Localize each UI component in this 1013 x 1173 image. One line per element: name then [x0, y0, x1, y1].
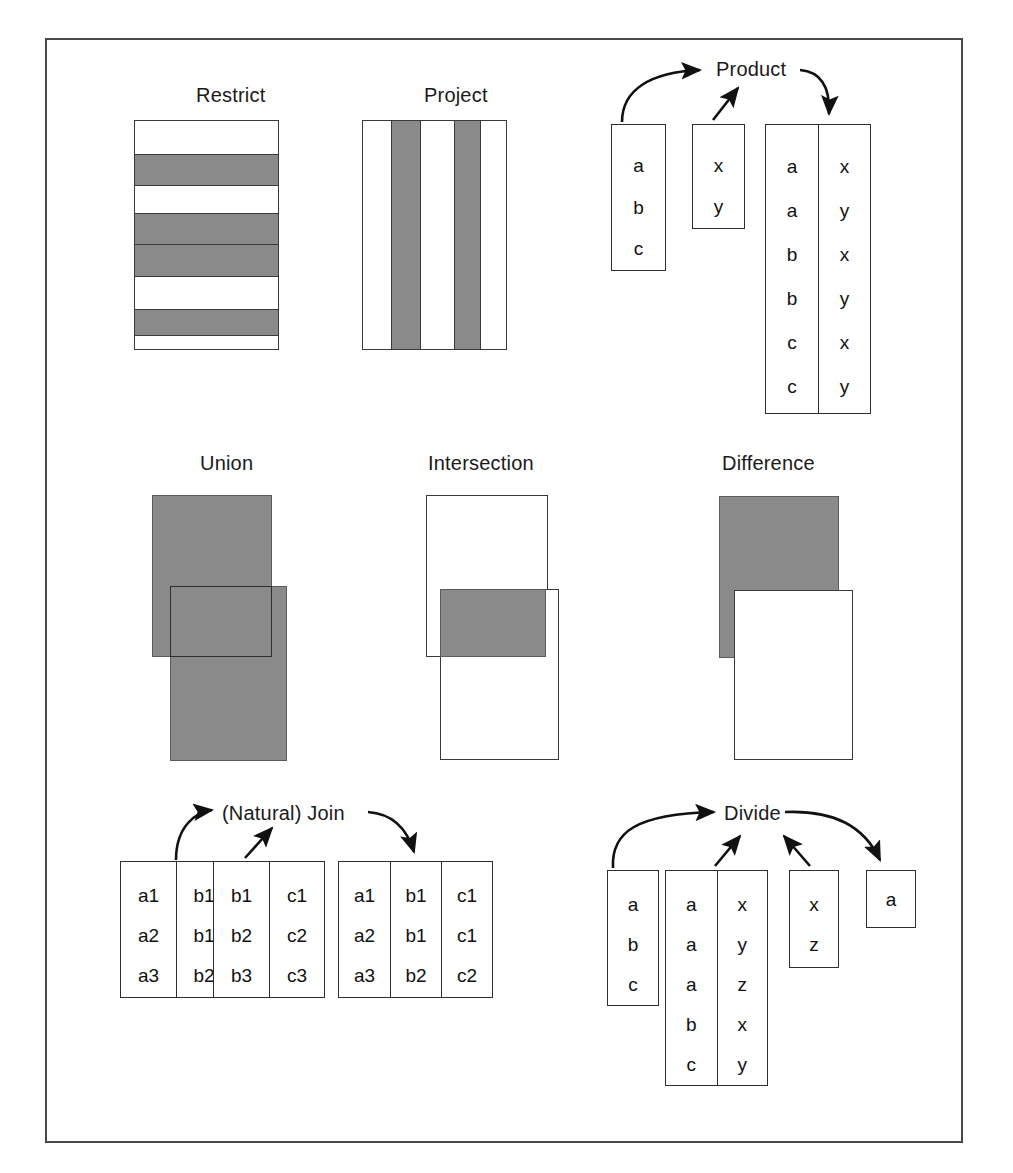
relation-column: a a a b c	[666, 871, 717, 1085]
relation-cell: a2	[121, 916, 176, 956]
relation-column: b1 b1 b2	[390, 862, 441, 997]
relation-cell: b	[766, 277, 818, 321]
restrict-band-4	[135, 213, 278, 245]
product-input-left: a b c	[611, 124, 666, 271]
relational-algebra-figure: Restrict Project Product a b c x y	[0, 0, 1013, 1173]
relation-column: b1 b2 b3	[214, 862, 269, 997]
relation-cell: a	[867, 880, 915, 920]
project-col-4	[454, 121, 481, 349]
divide-input-pairs: a a a b c x y z x y	[665, 870, 768, 1086]
join-title: (Natural) Join	[222, 802, 345, 825]
restrict-band-2	[135, 154, 278, 186]
relation-cell: b	[766, 233, 818, 277]
relation-cell: a	[766, 145, 818, 189]
project-title: Project	[424, 84, 488, 107]
relation-cell: y	[718, 925, 768, 965]
relation-column: c1 c2 c3	[269, 862, 324, 997]
relation-cell: a1	[121, 876, 176, 916]
relation-cell: x	[819, 233, 870, 277]
restrict-band-8	[135, 336, 278, 349]
relation-cell: b1	[391, 916, 441, 956]
relation-cell: a	[612, 145, 665, 187]
relation-cell: a	[666, 885, 717, 925]
relation-cell: a	[766, 189, 818, 233]
relation-column: x y z x y	[717, 871, 768, 1085]
divide-input-left: a b c	[607, 870, 659, 1006]
relation-column: a a b b c c	[766, 125, 818, 413]
relation-cell: b	[612, 187, 665, 229]
relation-cell: b	[666, 1005, 717, 1045]
relation-cell: a	[666, 925, 717, 965]
restrict-band-1	[135, 121, 278, 154]
relation-column: x y x y x y	[818, 125, 870, 413]
relation-cell: z	[790, 925, 838, 965]
relation-cell: x	[819, 321, 870, 365]
restrict-title: Restrict	[196, 84, 265, 107]
relation-cell: a2	[339, 916, 390, 956]
relation-cell: c2	[442, 956, 492, 996]
relation-cell: c	[766, 365, 818, 409]
relation-cell: x	[718, 1005, 768, 1045]
project-col-5	[481, 121, 506, 349]
union-overlap-outline	[170, 586, 272, 657]
relation-cell: c1	[442, 916, 492, 956]
divide-input-divisor: x z	[789, 870, 839, 968]
relation-column: x y	[693, 125, 744, 228]
relation-column: a b c	[612, 125, 665, 270]
relation-cell: x	[790, 885, 838, 925]
project-diagram	[362, 120, 507, 350]
relation-cell: c	[612, 228, 665, 270]
restrict-band-6	[135, 277, 278, 309]
relation-cell: b	[608, 925, 658, 965]
product-input-right: x y	[692, 124, 745, 229]
restrict-band-7	[135, 309, 278, 336]
divide-output: a	[866, 870, 916, 928]
relation-cell: a	[608, 885, 658, 925]
relation-column: x z	[790, 871, 838, 967]
intersection-overlap	[440, 589, 546, 657]
restrict-band-3	[135, 186, 278, 213]
restrict-band-5	[135, 245, 278, 277]
relation-cell: y	[693, 187, 744, 229]
relation-cell: y	[819, 365, 870, 409]
difference-set-b	[734, 590, 853, 760]
relation-cell: b2	[214, 916, 269, 956]
difference-title: Difference	[722, 452, 815, 475]
relation-cell: c3	[270, 956, 324, 996]
divide-title: Divide	[724, 802, 781, 825]
join-output: a1 a2 a3 b1 b1 b2 c1 c1 c2	[338, 861, 493, 998]
join-input-right: b1 b2 b3 c1 c2 c3	[213, 861, 325, 998]
product-output: a a b b c c x y x y x y	[765, 124, 871, 414]
relation-column: a b c	[608, 871, 658, 1005]
relation-cell: a	[666, 965, 717, 1005]
relation-cell: x	[693, 145, 744, 187]
relation-cell: z	[718, 965, 768, 1005]
relation-cell: c1	[270, 876, 324, 916]
product-title: Product	[716, 58, 786, 81]
relation-column: a	[867, 871, 915, 927]
relation-cell: y	[718, 1045, 768, 1085]
relation-cell: c1	[442, 876, 492, 916]
relation-cell: x	[819, 145, 870, 189]
relation-cell: c	[608, 965, 658, 1005]
union-title: Union	[200, 452, 253, 475]
relation-cell: c	[666, 1045, 717, 1085]
relation-cell: b1	[391, 876, 441, 916]
relation-column: a1 a2 a3	[121, 862, 176, 997]
project-col-3	[421, 121, 454, 349]
project-col-1	[363, 121, 391, 349]
relation-cell: c2	[270, 916, 324, 956]
intersection-title: Intersection	[428, 452, 534, 475]
relation-cell: b3	[214, 956, 269, 996]
relation-cell: y	[819, 189, 870, 233]
relation-column: a1 a2 a3	[339, 862, 390, 997]
restrict-diagram	[134, 120, 279, 350]
relation-cell: a3	[121, 956, 176, 996]
relation-cell: b1	[214, 876, 269, 916]
relation-cell: y	[819, 277, 870, 321]
project-col-2	[391, 121, 421, 349]
relation-cell: a1	[339, 876, 390, 916]
relation-cell: c	[766, 321, 818, 365]
relation-cell: b2	[391, 956, 441, 996]
relation-cell: a3	[339, 956, 390, 996]
